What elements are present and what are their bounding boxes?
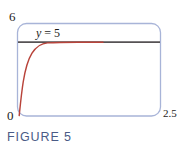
axis-label-x-max: 2.5: [163, 108, 177, 119]
asymptote-annotation: y = 5: [36, 27, 60, 39]
asymptote-variable: y: [36, 26, 41, 40]
axis-label-y-max: 6: [9, 10, 16, 23]
exponential-curve: [19, 42, 103, 115]
plot-area: 6 0 2.5 y = 5: [0, 0, 191, 128]
asymptote-equation-rhs: = 5: [44, 26, 60, 40]
figure-container: 6 0 2.5 y = 5 FIGURE 5: [0, 0, 191, 152]
figure-caption: FIGURE 5: [7, 131, 72, 144]
axis-label-origin: 0: [7, 109, 14, 122]
